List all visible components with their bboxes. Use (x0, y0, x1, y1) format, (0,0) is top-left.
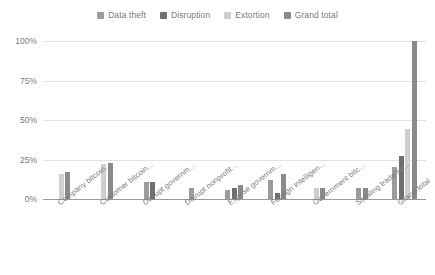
legend-label: Data theft (108, 10, 146, 20)
legend-item-data-theft[interactable]: Data theft (97, 10, 146, 20)
legend-item-extortion[interactable]: Extortion (224, 10, 269, 20)
legend-label: Disruption (171, 10, 210, 20)
y-axis-tick-label: 25% (20, 155, 37, 165)
legend-swatch-icon (160, 12, 167, 19)
legend-item-disruption[interactable]: Disruption (160, 10, 210, 20)
legend-item-grand-total[interactable]: Grand total (284, 10, 338, 20)
y-axis-tick-label: 50% (20, 115, 37, 125)
legend-swatch-icon (224, 12, 231, 19)
y-axis-labels: 0%25%50%75%100% (0, 41, 40, 199)
y-axis-tick-label: 0% (25, 194, 37, 204)
bar-group (43, 41, 86, 199)
y-axis-tick-label: 100% (15, 36, 37, 46)
legend-label: Grand total (295, 10, 338, 20)
bar[interactable] (412, 41, 417, 199)
bar-chart: Data theft Disruption Extortion Grand to… (0, 0, 435, 275)
legend-swatch-icon (284, 12, 291, 19)
y-axis-tick-label: 75% (20, 76, 37, 86)
legend-label: Extortion (235, 10, 269, 20)
legend-swatch-icon (97, 12, 104, 19)
chart-legend: Data theft Disruption Extortion Grand to… (0, 10, 435, 20)
x-axis-labels: Company bitcoin...Customer bitcoin...Dis… (43, 200, 426, 272)
